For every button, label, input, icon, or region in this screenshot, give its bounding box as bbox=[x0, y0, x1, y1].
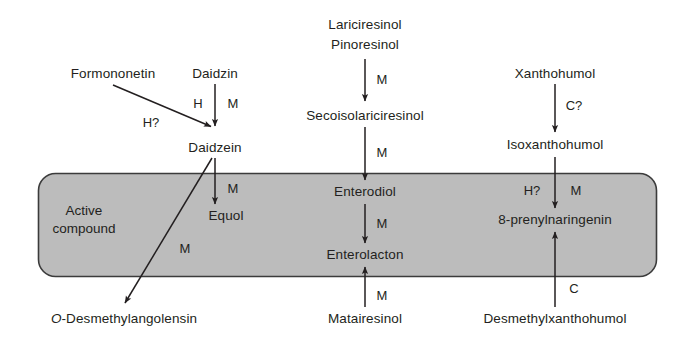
edge-label-daidzin-daidzein-m: M bbox=[228, 96, 239, 111]
odma-suffix: -Desmethylangolensin bbox=[62, 311, 198, 326]
pathway-diagram: Formononetin Daidzin Daidzein Equol O-De… bbox=[0, 0, 692, 347]
node-secoisolariciresinol: Secoisolariciresinol bbox=[306, 108, 424, 125]
node-equol: Equol bbox=[208, 208, 243, 225]
node-xanthohumol: Xanthohumol bbox=[515, 66, 596, 83]
node-matairesinol: Matairesinol bbox=[328, 311, 402, 328]
node-lariciresinol: Lariciresinol bbox=[328, 17, 401, 34]
node-daidzin: Daidzin bbox=[192, 66, 238, 83]
active-compound-caption: Activecompound bbox=[52, 202, 115, 238]
edge-label-isoxanthohumol-prenylnaringenin-h: H? bbox=[524, 183, 541, 198]
node-daidzein: Daidzein bbox=[188, 140, 241, 157]
edge-label-daidzein-equol-m: M bbox=[228, 181, 239, 196]
node-desmethylxanthohumol: Desmethylxanthohumol bbox=[483, 311, 626, 328]
active-compound-line2: compound bbox=[52, 221, 115, 236]
node-8-prenylnaringenin: 8-prenylnaringenin bbox=[498, 212, 612, 229]
node-formononetin: Formononetin bbox=[71, 66, 156, 83]
edge-label-pinoresinol-secoisolariciresinol-m: M bbox=[377, 72, 388, 87]
edge-label-desmethylxanthohumol-prenylnaringenin-c: C bbox=[569, 281, 578, 296]
node-enterolacton: Enterolacton bbox=[327, 247, 404, 264]
edge-label-isoxanthohumol-prenylnaringenin-m: M bbox=[571, 183, 582, 198]
edge-label-enterodiol-enterolacton-m: M bbox=[377, 216, 388, 231]
odma-italic-prefix: O bbox=[51, 311, 62, 326]
edge-label-matairesinol-enterolacton-m: M bbox=[377, 288, 388, 303]
edge-label-secoisolariciresinol-enterodiol-m: M bbox=[377, 145, 388, 160]
edge-label-xanthohumol-isoxanthohumol-c: C? bbox=[566, 98, 583, 113]
edge-label-daidzein-odma-m: M bbox=[180, 241, 191, 256]
node-isoxanthohumol: Isoxanthohumol bbox=[507, 137, 604, 154]
edge-label-daidzin-daidzein-h: H bbox=[193, 96, 202, 111]
edge-label-formononetin-daidzein: H? bbox=[143, 115, 160, 130]
node-enterodiol: Enterodiol bbox=[334, 184, 396, 201]
active-compound-line1: Active bbox=[66, 203, 103, 218]
node-o-desmethylangolensin: O-Desmethylangolensin bbox=[51, 311, 197, 328]
node-pinoresinol: Pinoresinol bbox=[331, 37, 399, 54]
